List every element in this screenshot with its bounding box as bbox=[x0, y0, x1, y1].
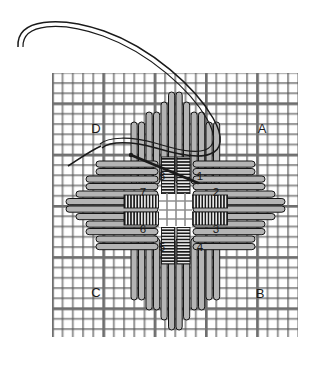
corner-label-d: D bbox=[91, 121, 100, 136]
corner-label-a: A bbox=[258, 121, 267, 136]
diagram-canvas: A B C D bbox=[0, 0, 333, 365]
step-label-8: 8 bbox=[159, 170, 165, 182]
step-label-2: 2 bbox=[213, 186, 219, 198]
corner-label-c: C bbox=[91, 285, 100, 300]
needlework-diagram: A B C D bbox=[0, 0, 333, 365]
coil-bar-bottom-right bbox=[177, 227, 190, 264]
step-label-7: 7 bbox=[140, 186, 146, 198]
corner-label-b: B bbox=[256, 286, 265, 301]
step-label-1: 1 bbox=[197, 170, 203, 182]
step-label-4: 4 bbox=[197, 241, 204, 253]
step-label-5: 5 bbox=[159, 241, 165, 253]
coil-bar-right-lower bbox=[191, 212, 228, 225]
coil-bar-right-upper bbox=[191, 195, 228, 208]
open-center-square bbox=[159, 193, 192, 227]
step-label-6: 6 bbox=[140, 223, 146, 235]
step-label-3: 3 bbox=[213, 223, 219, 235]
thread-anchor-point bbox=[129, 153, 133, 157]
